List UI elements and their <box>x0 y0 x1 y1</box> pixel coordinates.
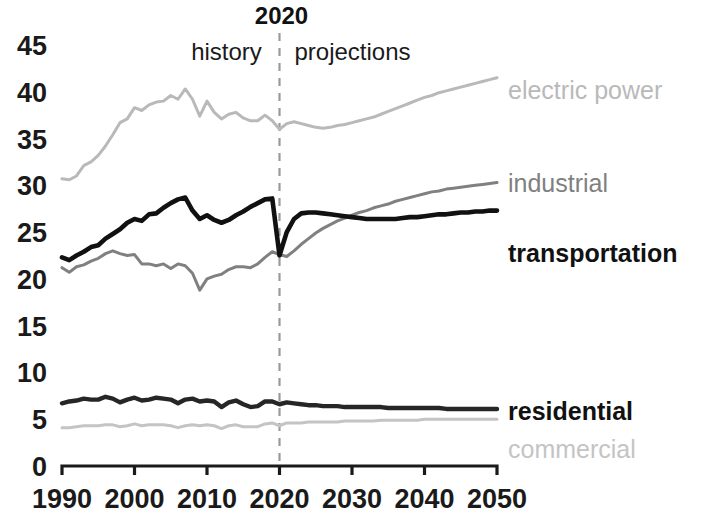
y-tick-label: 40 <box>17 78 47 108</box>
x-tick-label: 2000 <box>104 484 164 514</box>
series-inline-labels: electric powerindustrialtransportationre… <box>508 76 677 463</box>
y-tick-label: 35 <box>17 125 47 155</box>
x-axis-tick-labels: 1990200020102020203020402050 <box>32 484 527 514</box>
x-tick-label: 2050 <box>467 484 527 514</box>
x-tick-label: 2010 <box>177 484 237 514</box>
series-lines <box>62 78 497 429</box>
series-label-industrial: industrial <box>508 169 608 197</box>
series-label-commercial: commercial <box>508 435 636 463</box>
y-tick-label: 20 <box>17 265 47 295</box>
y-tick-label: 30 <box>17 171 47 201</box>
line-chart: 051015202530354045 199020002010202020302… <box>0 0 701 532</box>
series-label-transportation: transportation <box>508 239 677 267</box>
x-tick-label: 2040 <box>394 484 454 514</box>
x-tick-label: 2030 <box>322 484 382 514</box>
y-tick-label: 10 <box>17 358 47 388</box>
y-tick-label: 45 <box>17 31 47 61</box>
chart-container: 051015202530354045 199020002010202020302… <box>0 0 701 532</box>
y-tick-label: 15 <box>17 312 47 342</box>
y-tick-label: 25 <box>17 218 47 248</box>
x-tick-label: 2020 <box>249 484 309 514</box>
y-tick-label: 0 <box>32 452 47 482</box>
projections-period-label: projections <box>294 38 410 65</box>
x-tick-label: 1990 <box>32 484 92 514</box>
series-label-residential: residential <box>508 397 633 425</box>
chart-axes <box>62 466 497 475</box>
y-axis-tick-labels: 051015202530354045 <box>17 31 47 482</box>
series-label-electric-power: electric power <box>508 76 662 104</box>
divider-year-label: 2020 <box>255 2 308 29</box>
history-period-label: history <box>191 38 262 65</box>
y-tick-label: 5 <box>32 405 47 435</box>
